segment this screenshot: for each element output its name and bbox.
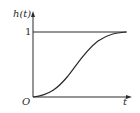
x-axis-label: t [123,97,127,107]
y-tick-one: 1 [25,27,31,37]
y-axis-label: h(t) [13,9,31,19]
origin-label: O [22,97,30,107]
response-curve [33,32,126,97]
y-axis-arrow-icon [31,11,35,17]
